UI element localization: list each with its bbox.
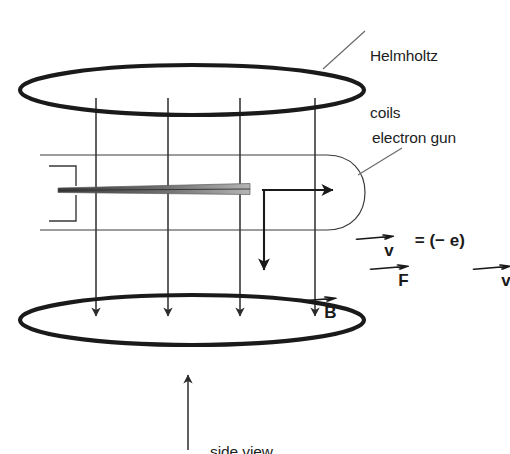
velocity-overbar-arrow-icon	[355, 194, 397, 201]
helmholtz-coils-label-line1: Helmholtz	[370, 46, 438, 65]
field-vector-symbol: B	[324, 303, 336, 322]
electron-gun-label: electron gun	[372, 128, 456, 147]
electron-gun-bracket	[49, 166, 76, 221]
top-coil	[20, 65, 364, 115]
side-view-label-line1: side view	[210, 442, 273, 454]
formula-equals-charge: = (− e)	[415, 231, 465, 251]
physics-diagram-figure: Helmholtz coils electron gun side view t…	[0, 0, 510, 454]
field-overbar-arrow-icon	[295, 256, 340, 263]
formula-force-symbol: F	[398, 271, 408, 290]
leader-line-helmholtz	[323, 31, 365, 69]
electron-gun-assembly	[49, 166, 250, 221]
field-vector-label: B	[277, 243, 337, 363]
lorentz-force-formula: F = (− e) v X B	[370, 231, 510, 311]
helmholtz-coils-label-line2: coils	[370, 103, 438, 122]
side-view-label: side view this way	[210, 404, 273, 454]
formula-velocity-symbol: v	[501, 271, 510, 290]
